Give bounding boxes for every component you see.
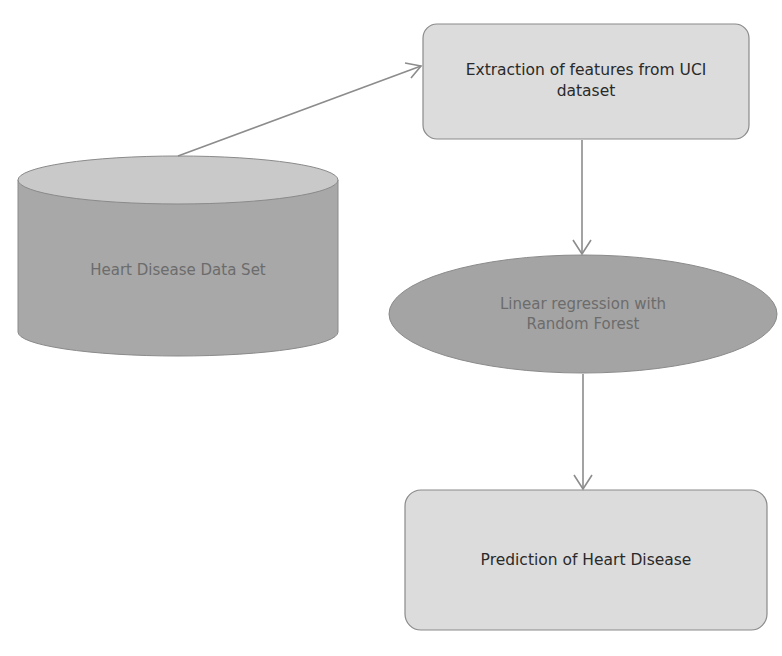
model-label: Linear regression with Random Forest [470, 280, 696, 348]
prediction-label: Prediction of Heart Disease [405, 540, 767, 580]
extraction-label: Extraction of features from UCI dataset [440, 40, 732, 122]
arrow-extraction-to-model [573, 140, 591, 254]
dataset-label: Heart Disease Data Set [18, 250, 338, 290]
arrow-dataset-to-extraction [178, 63, 421, 156]
arrow-model-to-prediction [574, 374, 592, 489]
